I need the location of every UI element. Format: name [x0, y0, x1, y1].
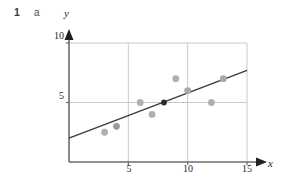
x-tick-label: 5: [121, 163, 137, 174]
data-point-marker: [184, 87, 191, 94]
data-point-marker: [208, 99, 215, 106]
axes: [65, 29, 268, 167]
data-point-marker: [220, 75, 227, 82]
y-axis-label: y: [64, 7, 69, 19]
data-point-marker: [113, 123, 120, 130]
regression-line: [69, 70, 247, 138]
mean-point-marker: [161, 100, 167, 106]
scatter-plot: [0, 0, 287, 185]
y-tick-label: 10: [48, 30, 64, 41]
y-tick-label: 5: [48, 90, 64, 101]
figure-container: 1 a y x 10 5 5 10 15: [0, 0, 287, 185]
x-axis-arrowhead: [256, 158, 267, 167]
data-point-marker: [149, 111, 156, 118]
data-point-marker: [172, 75, 179, 82]
data-points: [101, 75, 226, 135]
x-axis-label: x: [268, 157, 273, 169]
y-axis-arrowhead: [65, 29, 74, 40]
data-point-marker: [101, 129, 108, 136]
data-point-marker: [137, 99, 144, 106]
line-of-best-fit: [69, 70, 247, 138]
x-tick-label: 15: [239, 163, 255, 174]
x-tick-label: 10: [180, 163, 196, 174]
gridlines: [69, 43, 247, 162]
